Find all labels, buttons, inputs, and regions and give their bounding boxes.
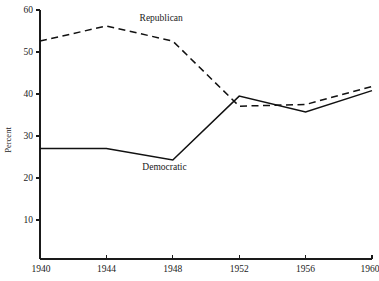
series-annotations: RepublicanDemocratic <box>140 13 187 172</box>
chart-container: 102030405060 194019441948195219561960 Re… <box>0 0 379 281</box>
series-label-democratic: Democratic <box>142 162 186 172</box>
series-line-democratic <box>40 91 372 160</box>
y-axis-title: Percent <box>3 127 13 153</box>
y-axis-tick-label: 30 <box>24 131 34 141</box>
x-axis-tick-label: 1940 <box>32 264 51 274</box>
line-chart: 102030405060 194019441948195219561960 Re… <box>0 0 379 281</box>
x-axis-tick-label: 1960 <box>361 264 379 274</box>
y-axis-tick-label: 60 <box>24 5 34 15</box>
y-axis-tick-label: 10 <box>24 215 34 225</box>
series-layer <box>40 26 372 160</box>
series-line-republican <box>40 26 372 106</box>
x-axis-tick-label: 1952 <box>230 264 249 274</box>
x-axis-tick-label: 1956 <box>296 264 315 274</box>
y-axis: 102030405060 <box>24 5 41 259</box>
x-axis: 194019441948195219561960 <box>32 255 379 274</box>
x-axis-tick-label: 1948 <box>163 264 182 274</box>
y-axis-tick-label: 20 <box>24 173 34 183</box>
series-label-republican: Republican <box>140 13 184 23</box>
x-axis-tick-label: 1944 <box>97 264 116 274</box>
y-axis-tick-label: 50 <box>24 47 34 57</box>
y-axis-tick-label: 40 <box>24 89 34 99</box>
